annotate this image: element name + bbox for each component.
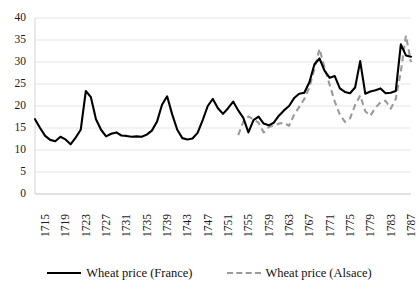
legend-item-alsace: Wheat price (Alsace) — [227, 267, 372, 280]
x-tick-label: 1783 — [386, 214, 398, 237]
x-tick-label: 1719 — [60, 214, 72, 237]
x-tick-label: 1763 — [284, 214, 296, 237]
legend-label-alsace: Wheat price (Alsace) — [266, 267, 372, 280]
legend-item-france: Wheat price (France) — [47, 267, 192, 280]
x-tick-label: 1787 — [406, 214, 418, 237]
x-tick-label: 1759 — [264, 214, 276, 237]
legend-swatch-dashed-icon — [227, 272, 261, 274]
x-tick-label: 1767 — [304, 214, 316, 237]
series-line-alsace — [238, 36, 411, 135]
x-tick-label: 1739 — [162, 214, 174, 237]
x-tick-label: 1751 — [223, 214, 235, 237]
x-tick-label: 1715 — [40, 214, 52, 237]
x-tick-label: 1735 — [142, 214, 154, 237]
x-tick-label: 1755 — [243, 214, 255, 237]
x-tick-label: 1743 — [182, 214, 194, 237]
wheat-price-line-chart: 4035302520151050 17151719172317271731173… — [0, 0, 419, 291]
series-line-france — [35, 44, 411, 144]
x-tick-label: 1731 — [121, 214, 133, 237]
x-tick-label: 1727 — [101, 214, 113, 237]
legend-label-france: Wheat price (France) — [86, 267, 192, 280]
x-tick-label: 1747 — [203, 214, 215, 237]
plot-area — [0, 0, 419, 291]
x-tick-label: 1779 — [365, 214, 377, 237]
x-tick-label: 1775 — [345, 214, 357, 237]
legend-swatch-solid-icon — [47, 272, 81, 274]
x-tick-label: 1771 — [325, 214, 337, 237]
x-tick-label: 1723 — [81, 214, 93, 237]
chart-legend: Wheat price (France) Wheat price (Alsace… — [0, 262, 419, 284]
